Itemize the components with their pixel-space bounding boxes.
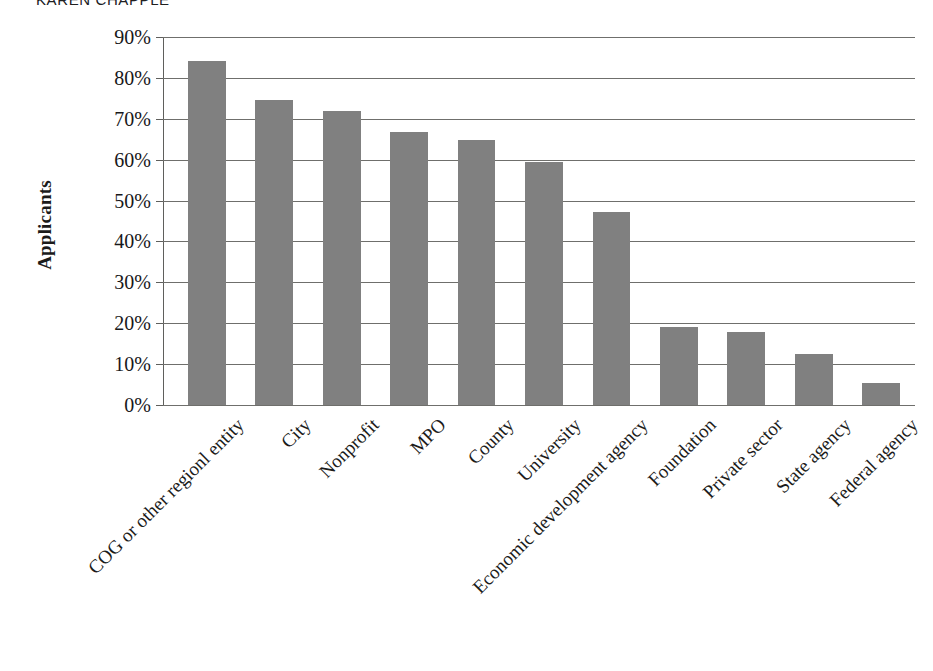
x-axis-category-label: City [277,414,316,453]
y-axis-tick [156,201,163,202]
x-axis-category-label: Nonprofit [315,414,384,483]
y-axis-tick-label: 30% [114,271,151,294]
bar[interactable] [525,162,563,405]
y-axis-tick [156,364,163,365]
y-axis-tick-label: 10% [114,353,151,376]
y-axis-tick [156,282,163,283]
bar[interactable] [390,132,428,405]
y-axis-tick [156,160,163,161]
x-axis-category-label: COG or other regionl entity [83,414,248,579]
y-axis-title-text: Applicants [34,180,56,270]
running-header: KAREN CHAPPLE [36,0,170,8]
y-axis-tick [156,323,163,324]
y-axis-tick-label: 40% [114,230,151,253]
bar[interactable] [188,61,226,405]
y-axis-tick-label: 20% [114,312,151,335]
y-axis-tick [156,405,163,406]
bar[interactable] [255,100,293,405]
y-axis-tick-label: 70% [114,107,151,130]
y-axis-tick-label: 50% [114,189,151,212]
y-axis-tick-label: 90% [114,26,151,49]
x-axis-category-labels: COG or other regionl entityCityNonprofit… [163,405,915,655]
x-axis-category-label: County [463,414,518,469]
bar[interactable] [795,354,833,405]
y-axis-tick-label: 60% [114,148,151,171]
bar[interactable] [660,327,698,405]
y-axis-tick-label: 0% [124,394,151,417]
y-axis-tick [156,37,163,38]
y-axis-tick [156,241,163,242]
bar[interactable] [458,140,496,405]
plot-area: 90%80%70%60%50%40%30%20%10%0% [163,37,915,405]
bar[interactable] [593,212,631,405]
chart-page: KAREN CHAPPLE Applicants 90%80%70%60%50%… [0,0,933,671]
y-axis-tick [156,78,163,79]
y-axis-title: Applicants [34,150,56,300]
y-axis-tick [156,119,163,120]
y-axis-tick-label: 80% [114,66,151,89]
bar[interactable] [862,383,900,405]
bar[interactable] [323,111,361,405]
bar-series [163,37,915,405]
x-axis-category-label: MPO [406,414,451,459]
bar[interactable] [727,332,765,405]
